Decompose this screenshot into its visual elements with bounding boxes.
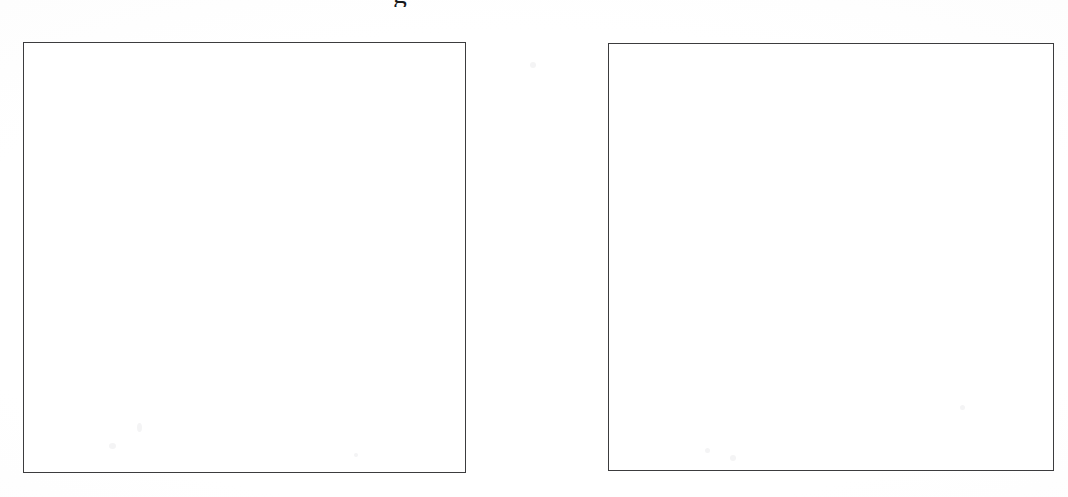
scanned-page: g [0,0,1068,497]
figure-frame-right[interactable] [608,43,1054,471]
figure-frame-left[interactable] [23,42,466,473]
scan-speckle [530,62,536,68]
scan-speckle [109,443,116,449]
scan-speckle [137,423,142,432]
cropped-caption-glyph: g [380,0,420,7]
scan-speckle [354,453,358,457]
